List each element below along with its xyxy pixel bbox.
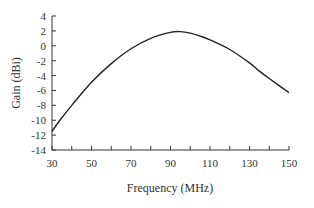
x-tick-label: 50: [86, 157, 98, 169]
x-tick-label: 110: [202, 157, 219, 169]
gain-vs-frequency-chart: 420-2-4-6-8-10-12-14 30507090110130150 F…: [0, 0, 314, 208]
x-tick-label: 90: [165, 157, 177, 169]
x-tick-label: 150: [281, 157, 298, 169]
chart-container: 420-2-4-6-8-10-12-14 30507090110130150 F…: [0, 0, 314, 208]
y-axis: 420-2-4-6-8-10-12-14: [31, 10, 56, 156]
y-tick-label: 0: [41, 40, 47, 52]
gain-curve: [52, 32, 289, 132]
plot-area: [52, 32, 289, 132]
y-tick-label: -4: [37, 70, 47, 82]
y-tick-label: 4: [41, 10, 47, 22]
x-axis-title: Frequency (MHz): [127, 181, 213, 195]
y-tick-label: -6: [37, 84, 47, 96]
y-tick-label: -14: [31, 144, 46, 156]
x-tick-label: 30: [47, 157, 59, 169]
x-axis: 30507090110130150: [47, 146, 298, 169]
x-tick-label: 70: [126, 157, 138, 169]
x-tick-label: 130: [241, 157, 258, 169]
y-tick-label: -12: [31, 129, 46, 141]
y-axis-title: Gain (dBi): [9, 57, 23, 109]
y-tick-label: -8: [37, 99, 47, 111]
y-tick-label: -2: [37, 55, 46, 67]
y-tick-label: 2: [41, 25, 47, 37]
y-tick-label: -10: [31, 114, 46, 126]
